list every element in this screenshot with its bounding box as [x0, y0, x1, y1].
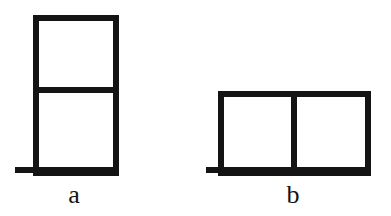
figure-canvas: a b — [0, 0, 391, 216]
panel-a-label: a — [52, 182, 96, 208]
panel-b-label: b — [271, 182, 315, 208]
